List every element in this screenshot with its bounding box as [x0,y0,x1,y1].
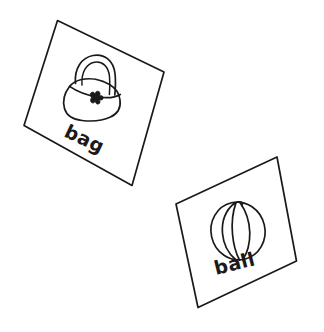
flashcards-canvas: bag ball [0,0,324,332]
scene-svg: bag ball [0,0,324,332]
